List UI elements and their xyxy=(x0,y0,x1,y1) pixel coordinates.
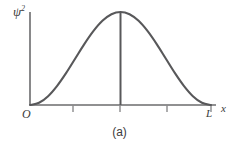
figure-caption: (a) xyxy=(0,126,239,138)
x-axis-label: x xyxy=(221,103,226,114)
y-axis-label-exponent: 2 xyxy=(21,4,25,13)
figure-container: ψ2 O L x (a) xyxy=(0,0,239,148)
y-axis-label: ψ2 xyxy=(13,5,25,18)
y-axis-label-symbol: ψ xyxy=(13,4,21,19)
x-axis-end-label: L xyxy=(206,108,212,119)
origin-label: O xyxy=(22,108,31,120)
